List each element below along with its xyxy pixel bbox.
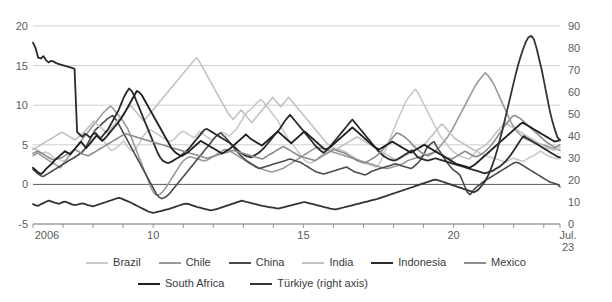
legend-label: Mexico	[491, 257, 526, 268]
plot-area	[33, 26, 560, 224]
series-line-india	[33, 58, 560, 161]
legend-item-mexico[interactable]: Mexico	[464, 257, 526, 268]
series-line-chile	[33, 73, 560, 196]
legend-item-t-rkiye-right-axis[interactable]: Türkiye (right axis)	[250, 278, 367, 289]
legend-item-brazil[interactable]: Brazil	[86, 257, 141, 268]
legend-label: China	[256, 257, 285, 268]
legend-item-chile[interactable]: Chile	[159, 257, 211, 268]
y-left-tick-5: 5	[8, 139, 28, 151]
legend-row-secondary: South AfricaTürkiye (right axis)	[0, 273, 612, 294]
legend-item-china[interactable]: China	[229, 257, 285, 268]
x-tick-15: 15	[283, 229, 323, 241]
y-right-tick-70: 70	[568, 64, 592, 76]
legend-label: South Africa	[165, 278, 224, 289]
legend-label: Indonesia	[398, 257, 446, 268]
chart-legend: BrazilChileChinaIndiaIndonesiaMexico Sou…	[0, 252, 612, 294]
y-right-tick-10: 10	[568, 196, 592, 208]
chart-container: 20151050-5 9080706050403020100 200610152…	[0, 0, 612, 302]
y-left-tick-10: 10	[8, 99, 28, 111]
x-tick-10: 10	[133, 229, 173, 241]
legend-item-indonesia[interactable]: Indonesia	[371, 257, 446, 268]
legend-swatch-icon	[86, 262, 108, 264]
y-right-tick-20: 20	[568, 174, 592, 186]
legend-swatch-icon	[250, 283, 272, 285]
legend-swatch-icon	[159, 262, 181, 264]
x-tick-20: 20	[434, 229, 474, 241]
series-line-t-rkiye-right-axis	[33, 36, 560, 213]
y-left-tick-neg5: -5	[8, 218, 28, 230]
y-right-tick-80: 80	[568, 42, 592, 54]
legend-label: India	[329, 257, 353, 268]
y-left-tick-0: 0	[8, 178, 28, 190]
y-right-tick-40: 40	[568, 130, 592, 142]
y-left-tick-15: 15	[8, 60, 28, 72]
y-right-tick-60: 60	[568, 86, 592, 98]
y-left-tick-20: 20	[8, 20, 28, 32]
legend-row-primary: BrazilChileChinaIndiaIndonesiaMexico	[0, 252, 612, 273]
legend-label: Brazil	[113, 257, 141, 268]
legend-swatch-icon	[229, 262, 251, 264]
legend-swatch-icon	[138, 283, 160, 285]
x-tick-jul-23: Jul.23	[548, 229, 588, 253]
legend-swatch-icon	[371, 262, 393, 264]
legend-item-south-africa[interactable]: South Africa	[138, 278, 224, 289]
series-lines	[33, 26, 560, 224]
legend-item-india[interactable]: India	[302, 257, 353, 268]
legend-label: Chile	[186, 257, 211, 268]
y-right-tick-30: 30	[568, 152, 592, 164]
legend-swatch-icon	[464, 262, 486, 264]
y-right-tick-90: 90	[568, 20, 592, 32]
y-right-tick-50: 50	[568, 108, 592, 120]
legend-swatch-icon	[302, 262, 324, 264]
legend-label: Türkiye (right axis)	[277, 278, 367, 289]
x-tick-2006: 2006	[27, 229, 67, 241]
